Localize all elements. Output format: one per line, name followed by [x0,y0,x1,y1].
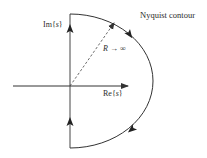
imaginary-axis-label: Im{s} [43,21,63,29]
contour-arc [70,14,153,148]
radius-label: R → ∞ [103,45,126,53]
radius-dashed-line [70,23,114,86]
real-axis-label: Re{s} [103,90,123,98]
arc-arrow-icon [124,29,135,40]
radius-label-rest: → ∞ [108,44,126,53]
re-label-suffix: } [119,89,123,98]
nyquist-contour-diagram [0,0,207,158]
im-label-prefix: Im{ [43,20,56,29]
diagram-title: Nyquist contour [140,11,195,20]
im-label-suffix: } [59,20,63,29]
re-label-prefix: Re{ [103,89,116,98]
